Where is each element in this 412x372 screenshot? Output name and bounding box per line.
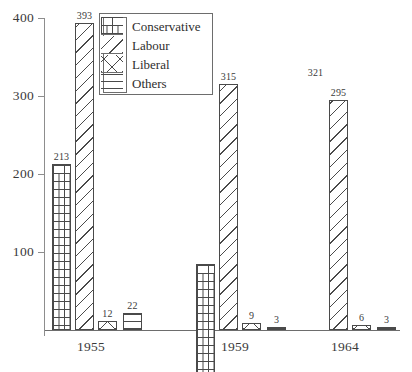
legend-label-liberal: Liberal [132, 55, 170, 74]
legend-label-labour: Labour [132, 36, 170, 55]
x-axis-tick-label-1959: 1959 [221, 340, 249, 354]
x-axis-tick-label-1955: 1955 [77, 340, 105, 354]
bar-value-label: 393 [77, 11, 93, 21]
bar-liberal-1959 [242, 323, 261, 330]
bar-chart: 100200300400 195519591964 21339312222983… [0, 0, 412, 372]
bar-value-label: 295 [331, 88, 347, 98]
bar-liberal-1955 [98, 321, 117, 330]
y-axis-tick-label: 400 [0, 11, 34, 25]
x-axis-line [44, 330, 400, 331]
bar-value-label: 321 [308, 68, 324, 78]
legend-swatch-liberal [101, 55, 123, 73]
legend-label-conservative: Conservative [132, 17, 201, 36]
bar-value-label: 12 [102, 309, 112, 319]
x-axis-tick-label-1964: 1964 [331, 340, 359, 354]
y-axis-tick-label: 100 [0, 245, 34, 259]
x-axis-origin-tick [44, 330, 45, 336]
bar-liberal-1964 [352, 325, 371, 330]
bar-conservative-1959 [196, 264, 215, 372]
bar-others-1964 [377, 327, 396, 330]
y-axis-tick [38, 18, 45, 19]
legend-label-others: Others [132, 74, 167, 93]
bar-value-label: 213 [54, 152, 70, 162]
legend-swatch-others [101, 74, 123, 92]
legend-swatch-labour [101, 36, 123, 54]
legend: ConservativeLabourLiberalOthers [99, 13, 213, 95]
y-axis-tick [38, 252, 45, 253]
bar-value-label: 22 [127, 301, 137, 311]
bar-value-label: 9 [249, 311, 254, 321]
bar-labour-1964 [329, 100, 348, 330]
legend-swatch-conservative [101, 17, 123, 35]
bar-value-label: 6 [359, 313, 364, 323]
bar-others-1955 [123, 313, 142, 330]
bar-labour-1959 [219, 84, 238, 330]
y-axis-tick-label: 200 [0, 167, 34, 181]
y-axis-tick-label: 300 [0, 89, 34, 103]
bar-labour-1955 [75, 23, 94, 330]
y-axis-tick [38, 174, 45, 175]
bar-conservative-1955 [52, 164, 71, 330]
bar-others-1959 [267, 327, 286, 330]
bar-value-label: 3 [274, 315, 279, 325]
y-axis-tick [38, 96, 45, 97]
bar-value-label: 315 [221, 72, 237, 82]
bar-value-label: 3 [384, 315, 389, 325]
